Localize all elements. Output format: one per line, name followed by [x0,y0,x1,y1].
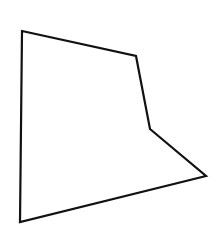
diagram-svg [0,0,220,225]
pentagon-shape [20,31,206,222]
diagram-canvas [0,0,220,225]
